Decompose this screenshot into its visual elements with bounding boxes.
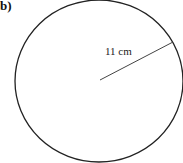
radius-label: 11 cm <box>105 45 132 57</box>
circle-outline <box>15 0 183 162</box>
circle-diagram <box>0 0 183 163</box>
